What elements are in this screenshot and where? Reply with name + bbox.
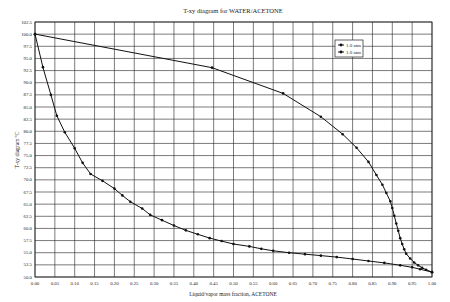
- data-point-marker: [81, 162, 84, 165]
- data-point-marker: [385, 192, 388, 195]
- data-point-marker: [208, 237, 211, 240]
- data-point-marker: [196, 233, 199, 236]
- y-tick-label: 55.0: [24, 250, 33, 255]
- legend-label-1: 1.0 atm: [346, 43, 361, 48]
- legend: 1.0 atm 1.0 atm: [335, 40, 363, 57]
- y-tick-label: 67.5: [24, 190, 33, 195]
- data-point-marker: [355, 147, 358, 150]
- data-point-marker: [389, 200, 392, 203]
- data-point-marker: [425, 268, 428, 271]
- data-point-marker: [351, 258, 354, 261]
- data-point-marker: [149, 214, 152, 217]
- data-point-marker: [129, 200, 132, 203]
- legend-marker-icon: [340, 51, 343, 54]
- data-point-marker: [282, 92, 285, 95]
- data-point-marker: [397, 230, 400, 233]
- data-point-marker: [393, 215, 396, 218]
- y-tick-label: 85.0: [24, 105, 33, 110]
- x-tick-label: 0.45: [209, 281, 218, 286]
- legend-label-2: 1.0 atm: [346, 50, 361, 55]
- y-tick-label: 92.5: [24, 68, 33, 73]
- x-tick-label: 0.30: [150, 281, 159, 286]
- data-point-marker: [220, 240, 223, 243]
- x-tick-label: 0.65: [289, 281, 298, 286]
- y-tick-label: 82.5: [24, 117, 33, 122]
- data-point-marker: [409, 257, 412, 260]
- legend-marker-icon: [340, 44, 343, 47]
- y-tick-label: 80.0: [24, 129, 33, 134]
- data-point-marker: [113, 187, 116, 190]
- data-point-marker: [260, 248, 263, 251]
- y-tick-label: 60.0: [24, 226, 33, 231]
- data-point-marker: [320, 115, 323, 118]
- y-tick-label: 95.0: [24, 56, 33, 61]
- y-tick-label: 102.5: [21, 20, 32, 25]
- x-axis-label: Liquid/vapor mass fraction, ACETONE: [189, 291, 277, 297]
- y-tick-label: 52.5: [24, 262, 33, 267]
- data-point-marker: [63, 131, 66, 134]
- y-tick-label: 72.5: [24, 165, 33, 170]
- x-tick-label: 1.00: [428, 281, 437, 286]
- x-tick-label: 0.80: [348, 281, 357, 286]
- y-tick-label: 100.0: [21, 32, 32, 37]
- data-point-marker: [161, 219, 164, 222]
- x-tick-label: 0.05: [51, 281, 60, 286]
- data-point-marker: [304, 253, 307, 256]
- data-point-marker: [50, 94, 53, 97]
- x-tick-label: 0.00: [31, 281, 40, 286]
- data-point-marker: [248, 245, 251, 248]
- data-point-marker: [272, 249, 275, 252]
- data-point-marker: [335, 256, 338, 259]
- data-point-marker: [42, 66, 45, 69]
- y-tick-label: 57.5: [24, 238, 33, 243]
- y-tick-label: 50.0: [24, 275, 33, 280]
- x-axis-ticks: 0.000.050.100.150.200.250.300.350.400.45…: [31, 281, 437, 286]
- x-tick-label: 0.90: [388, 281, 397, 286]
- data-point-marker: [401, 243, 404, 246]
- data-point-marker: [367, 260, 370, 263]
- data-point-marker: [341, 133, 344, 136]
- y-tick-label: 87.5: [24, 92, 33, 97]
- data-point-marker: [121, 194, 124, 197]
- data-point-marker: [185, 229, 188, 232]
- grid: [35, 22, 432, 277]
- data-point-marker: [211, 66, 214, 69]
- data-point-marker: [403, 248, 406, 251]
- data-point-marker: [383, 262, 386, 265]
- x-tick-label: 0.15: [90, 281, 99, 286]
- data-point-marker: [381, 183, 384, 186]
- x-tick-label: 0.75: [329, 281, 338, 286]
- data-point-marker: [421, 266, 424, 269]
- data-point-marker: [417, 264, 420, 267]
- y-axis-label: T-xy diagram ºC: [14, 132, 20, 169]
- x-tick-label: 0.40: [190, 281, 199, 286]
- x-tick-label: 0.55: [249, 281, 258, 286]
- data-point-marker: [89, 173, 92, 176]
- x-tick-label: 0.50: [229, 281, 238, 286]
- data-point-marker: [34, 33, 37, 36]
- y-axis-ticks: 50.052.555.057.560.062.565.067.570.072.5…: [21, 20, 32, 280]
- data-point-marker: [73, 147, 76, 150]
- data-point-marker: [141, 207, 144, 210]
- data-point-marker: [173, 224, 176, 227]
- x-tick-label: 0.25: [130, 281, 139, 286]
- data-point-marker: [375, 174, 378, 177]
- data-point-marker: [413, 261, 416, 264]
- data-point-marker: [101, 180, 104, 183]
- x-tick-label: 0.10: [70, 281, 79, 286]
- data-point-marker: [367, 161, 370, 164]
- y-tick-label: 65.0: [24, 202, 33, 207]
- data-point-marker: [431, 271, 434, 274]
- y-tick-label: 75.0: [24, 153, 33, 158]
- y-tick-label: 70.0: [24, 177, 33, 182]
- data-point-marker: [411, 266, 414, 269]
- y-tick-label: 90.0: [24, 80, 33, 85]
- y-tick-label: 97.5: [24, 44, 33, 49]
- data-point-marker: [399, 237, 402, 240]
- t-xy-chart: T-xy diagram for WATER/ACETONE 50.052.55…: [0, 0, 450, 302]
- data-point-marker: [395, 222, 398, 225]
- x-tick-label: 0.70: [309, 281, 318, 286]
- data-point-marker: [232, 243, 235, 246]
- data-point-marker: [56, 114, 59, 117]
- data-point-marker: [320, 254, 323, 257]
